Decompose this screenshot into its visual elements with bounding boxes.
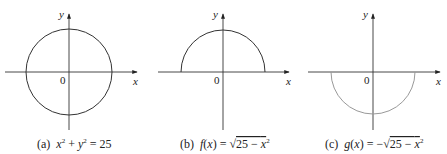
y-axis-label: y bbox=[362, 8, 368, 20]
panel-c: y x 0 (c) g(x) = −√25 − x2 bbox=[308, 8, 441, 151]
panel-b: y x 0 (b) f(x) = √25 − x2 bbox=[158, 8, 291, 151]
y-axis-label: y bbox=[58, 8, 64, 20]
caption-a: (a) x2 + y2 = 25 bbox=[37, 137, 112, 151]
caption-c: (c) g(x) = −√25 − x2 bbox=[325, 137, 424, 151]
caption-b: (b) f(x) = √25 − x2 bbox=[180, 137, 270, 151]
x-axis-label: x bbox=[435, 75, 441, 87]
y-axis-label: y bbox=[212, 8, 218, 20]
x-axis-label: x bbox=[285, 75, 291, 87]
figure: y x 0 (a) x2 + y2 = 25 y x 0 (b) f(x) = … bbox=[0, 0, 447, 154]
origin-label: 0 bbox=[364, 74, 370, 86]
x-axis-label: x bbox=[132, 75, 138, 87]
panel-a: y x 0 (a) x2 + y2 = 25 bbox=[5, 8, 138, 151]
origin-label: 0 bbox=[60, 74, 66, 86]
origin-label: 0 bbox=[214, 74, 220, 86]
